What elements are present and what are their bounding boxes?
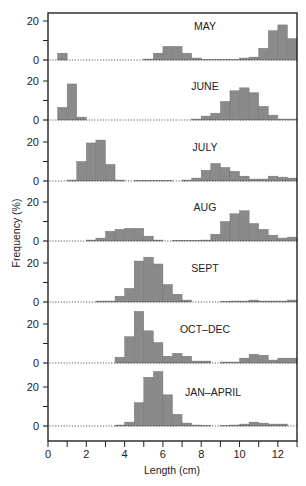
histogram-bar [125,228,135,241]
histogram-bar [105,164,115,181]
histogram-bar [125,422,135,426]
histogram-bar [105,301,115,302]
histogram-bar [153,180,163,181]
histogram-bar [211,113,221,120]
y-tick-label: 0 [33,114,39,126]
histogram-bar [287,39,297,60]
histogram-bar [211,163,221,181]
histogram-bar [173,294,183,302]
panel-title: JULY [193,141,218,153]
histogram-bar [134,311,144,363]
panel-title: JAN–APRIL [185,386,241,398]
histogram-bar [182,53,192,60]
histogram-panels: 020MAY020JUNE020JULY020AUG020SEPT020OCT–… [27,15,297,432]
panel-title: JUNE [191,80,218,92]
histogram-bar [259,48,269,60]
histogram-bar [278,25,288,60]
histogram-bar [163,46,173,60]
histogram-bar [268,360,278,363]
y-axis-title: Frequency (%) [10,199,22,268]
histogram-bar [144,377,154,426]
y-tick-label: 20 [27,381,39,393]
y-tick-label: 0 [33,296,39,308]
histogram-bar [240,358,250,363]
histogram-bar [115,296,125,302]
histogram-bar [153,53,163,60]
histogram-bar [173,414,183,426]
histogram-bar [249,93,259,120]
histogram-bar [230,214,240,241]
histogram-bar [278,238,288,241]
plot-frame [48,13,297,441]
y-tick-label: 0 [33,54,39,66]
panel-title: MAY [194,20,216,32]
histogram-bar [249,223,259,241]
histogram-bar [268,115,278,120]
histogram-bar [153,343,163,363]
histogram-bar [287,237,297,241]
histogram-bar [287,119,297,120]
histogram-bar [201,170,211,181]
histogram-bar [268,176,278,181]
x-axis-title: Length (cm) [144,464,200,476]
x-tick-label: 2 [83,448,89,460]
histogram-bar [96,238,106,241]
histogram-bar [144,257,154,302]
panel-sept: 020SEPT [27,257,297,308]
histogram-bar [67,84,77,120]
histogram-bar [259,229,269,241]
panel-title: AUG [194,201,217,213]
y-tick-label: 20 [27,136,39,148]
histogram-bar [287,358,297,363]
histogram-bar [268,31,278,60]
histogram-bar [153,371,163,426]
y-tick-label: 0 [33,175,39,187]
histogram-bar [220,59,230,60]
histogram-bar [278,358,288,363]
histogram-bar [173,46,183,60]
panel-may: 020MAY [27,15,297,66]
histogram-bar [259,355,269,363]
histogram-bar [249,422,259,426]
histogram-bar [182,356,192,363]
histogram-bar [220,222,230,242]
histogram-bar [96,140,106,181]
histogram-bar [259,106,269,120]
histogram-bar [173,353,183,363]
histogram-bar [211,234,221,241]
panel-oct-dec: 020OCT–DEC [27,311,297,369]
x-tick-label: 8 [198,448,204,460]
histogram-bar [220,101,230,120]
length-frequency-histogram-chart: 020MAY020JUNE020JULY020AUG020SEPT020OCT–… [0,0,306,486]
histogram-bar [77,117,87,120]
y-tick-label: 20 [27,15,39,27]
histogram-bar [125,337,135,363]
histogram-bar [77,162,87,182]
histogram-bar [192,178,202,181]
x-axis: 024681012 [45,441,297,460]
histogram-bar [153,264,163,302]
histogram-bar [259,423,269,426]
histogram-bar [278,177,288,181]
histogram-bar [201,116,211,120]
histogram-bar [163,395,173,426]
histogram-bar [115,229,125,241]
histogram-bar [287,300,297,302]
panel-title: OCT–DEC [180,323,231,335]
histogram-bar [268,235,278,241]
histogram-bar [153,240,163,241]
histogram-bar [144,331,154,363]
panel-july: 020JULY [27,136,297,187]
y-tick-label: 20 [27,318,39,330]
x-tick-label: 0 [45,448,51,460]
y-tick-label: 0 [33,357,39,369]
panel-aug: 020AUG [27,196,297,247]
histogram-bar [134,403,144,426]
histogram-bar [249,57,259,60]
y-tick-label: 20 [27,75,39,87]
histogram-bar [287,178,297,181]
y-tick-label: 0 [33,235,39,247]
histogram-bar [182,423,192,426]
histogram-bar [220,425,230,426]
histogram-bar [230,91,240,120]
